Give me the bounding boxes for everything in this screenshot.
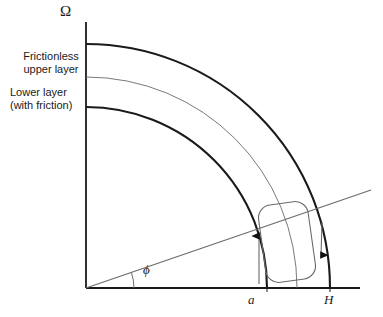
lower-layer-line2: (with friction) [10,99,92,112]
radial-ray-line [86,190,371,288]
phi-angle-arc [131,273,134,289]
lower-layer-label: Lower layer (with friction) [10,86,92,113]
figure-canvas: Ω Frictionless upper layer Lower layer (… [0,0,383,317]
diagram-svg [0,0,383,317]
phi-angle-label: ϕ [143,262,150,278]
layer-interface-arc [86,77,297,288]
inner-radius-label: a [248,292,255,308]
frictionless-upper-layer-label: Frictionless upper layer [12,50,90,77]
fluid-parcel-group [257,200,317,284]
downward-flow-arrow [321,222,322,255]
inner-boundary-arc [86,107,267,288]
fluid-parcel-box [257,200,317,284]
outer-radius-label: H [324,292,333,308]
frictionless-upper-layer-line1: Frictionless [12,50,90,63]
lower-layer-line1: Lower layer [10,86,92,99]
frictionless-upper-layer-line2: upper layer [12,63,90,76]
omega-axis-label: Ω [60,2,71,20]
